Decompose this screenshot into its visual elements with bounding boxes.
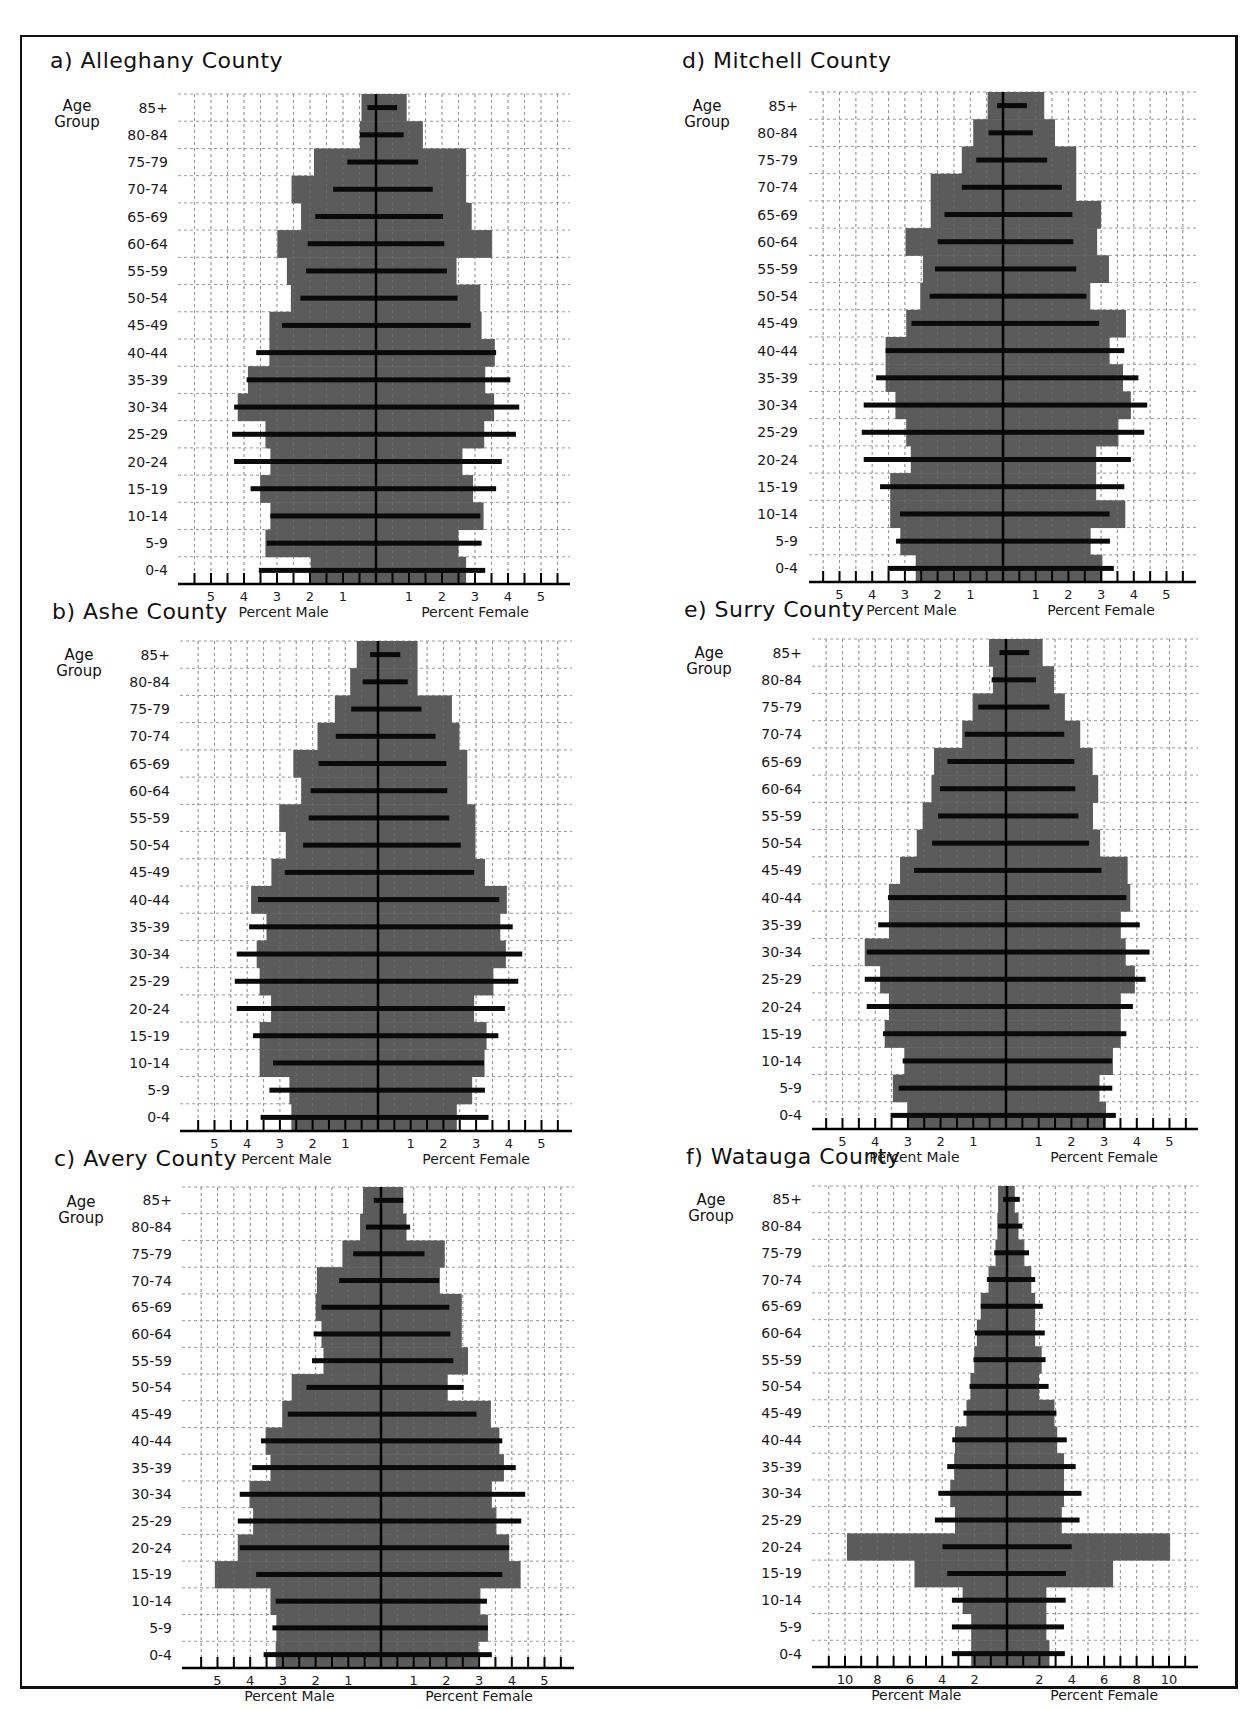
comparison-line: [351, 707, 421, 712]
comparison-line: [989, 130, 1033, 135]
age-label: 55-59: [761, 1352, 802, 1368]
comparison-line: [261, 1115, 489, 1120]
age-label: 0-4: [145, 562, 168, 578]
age-label: 0-4: [147, 1109, 170, 1125]
age-label: 85+: [138, 100, 168, 116]
age-label: 30-34: [757, 397, 798, 413]
panel-avery-county: c) Avery County Age Group 85+80-8475-797…: [30, 1130, 630, 1690]
x-tick-label: 8: [873, 1672, 881, 1687]
comparison-line: [992, 677, 1036, 682]
x-axis-label-female: Percent Female: [425, 1688, 533, 1704]
age-label: 85+: [140, 647, 170, 663]
comparison-line: [238, 1519, 522, 1524]
comparison-line: [886, 348, 1125, 353]
x-tick-label: 1: [410, 1673, 418, 1688]
comparison-line: [253, 1033, 498, 1038]
age-label: 25-29: [129, 973, 170, 989]
comparison-line: [864, 403, 1148, 408]
comparison-line: [333, 187, 433, 192]
comparison-line: [247, 377, 511, 382]
comparison-line: [952, 1651, 1065, 1656]
age-label: 75-79: [131, 1246, 172, 1262]
panel-surry-county: e) Surry County Age Group 85+80-8475-797…: [640, 585, 1240, 1145]
shaded-bars: [886, 92, 1131, 583]
age-label: 80-84: [761, 672, 802, 688]
age-label: 75-79: [757, 152, 798, 168]
comparison-line: [256, 1572, 502, 1577]
comparison-line: [318, 761, 446, 766]
comparison-line: [932, 841, 1089, 846]
age-label: 75-79: [761, 699, 802, 715]
age-label: 5-9: [775, 533, 798, 549]
comparison-line: [370, 652, 400, 657]
age-label: 65-69: [127, 209, 168, 225]
age-label: 50-54: [761, 1378, 802, 1394]
age-label: 30-34: [127, 399, 168, 415]
age-label: 75-79: [129, 701, 170, 717]
age-label: 30-34: [129, 946, 170, 962]
comparison-line: [321, 1305, 449, 1310]
age-label: 75-79: [127, 154, 168, 170]
age-label: 40-44: [761, 1432, 802, 1448]
comparison-line: [994, 1250, 1029, 1255]
age-label: 40-44: [129, 892, 170, 908]
age-label: 15-19: [761, 1565, 802, 1581]
age-label: 85+: [772, 1191, 802, 1207]
age-label: 15-19: [129, 1028, 170, 1044]
age-label: 80-84: [127, 127, 168, 143]
comparison-line: [938, 813, 1078, 818]
age-label: 20-24: [127, 454, 168, 470]
x-tick-label: 10: [1161, 1672, 1178, 1687]
shaded-bars: [847, 1186, 1170, 1668]
x-tick-label: 5: [213, 1673, 221, 1688]
age-label: 25-29: [761, 971, 802, 987]
panel-watauga-county: f) Watauga County Age Group 85+80-8475-7…: [640, 1130, 1240, 1690]
age-label: 70-74: [761, 1272, 802, 1288]
age-label: 65-69: [761, 1298, 802, 1314]
age-group-labels: 85+80-8475-7970-7465-6960-6455-5950-5445…: [757, 98, 798, 577]
comparison-line: [360, 132, 404, 137]
age-label: 45-49: [761, 862, 802, 878]
population-pyramid-chart: 85+80-8475-7970-7465-6960-6455-5950-5445…: [30, 40, 630, 600]
age-label: 45-49: [127, 317, 168, 333]
comparison-line: [237, 952, 522, 957]
age-label: 25-29: [761, 1512, 802, 1528]
comparison-line: [952, 1437, 1067, 1442]
age-label: 30-34: [131, 1486, 172, 1502]
age-label: 40-44: [127, 345, 168, 361]
age-label: 80-84: [757, 125, 798, 141]
age-label: 45-49: [761, 1405, 802, 1421]
age-label: 60-64: [127, 236, 168, 252]
age-label: 50-54: [761, 835, 802, 851]
population-pyramid-chart: 85+80-8475-7970-7465-6960-6455-5950-5445…: [640, 1130, 1240, 1690]
age-label: 10-14: [131, 1593, 172, 1609]
age-group-labels: 85+80-8475-7970-7465-6960-6455-5950-5445…: [761, 645, 802, 1124]
age-label: 85+: [142, 1192, 172, 1208]
comparison-line: [864, 457, 1131, 462]
age-label: 65-69: [131, 1299, 172, 1315]
comparison-line: [315, 214, 443, 219]
age-label: 40-44: [757, 343, 798, 359]
age-label: 80-84: [131, 1219, 172, 1235]
comparison-line: [938, 239, 1074, 244]
age-label: 30-34: [761, 1485, 802, 1501]
age-label: 60-64: [129, 783, 170, 799]
comparison-line: [970, 1384, 1049, 1389]
age-label: 20-24: [131, 1540, 172, 1556]
age-label: 5-9: [145, 535, 168, 551]
comparison-line: [366, 1225, 410, 1230]
x-axis-label-male: Percent Male: [871, 1687, 961, 1703]
age-label: 0-4: [149, 1647, 172, 1663]
comparison-line: [975, 1330, 1045, 1335]
comparison-line: [249, 924, 513, 929]
comparison-line: [935, 266, 1076, 271]
age-label: 5-9: [149, 1620, 172, 1636]
age-label: 60-64: [131, 1326, 172, 1342]
age-label: 20-24: [761, 1539, 802, 1555]
comparison-line: [347, 160, 418, 165]
age-label: 25-29: [127, 426, 168, 442]
age-label: 20-24: [761, 999, 802, 1015]
panel-ashe-county: b) Ashe County Age Group 85+80-8475-7970…: [30, 585, 630, 1145]
age-group-labels: 85+80-8475-7970-7465-6960-6455-5950-5445…: [127, 100, 168, 579]
shaded-bars: [865, 639, 1135, 1130]
